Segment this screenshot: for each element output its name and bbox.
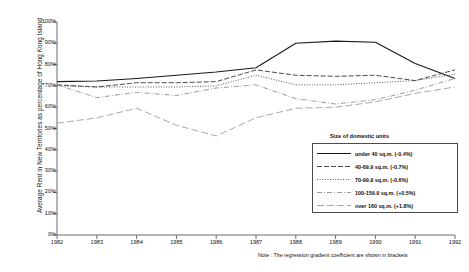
y-axis-tick-label: 100% (30, 19, 56, 25)
y-axis-tick-label: 20% (30, 189, 56, 195)
chart-note: Note : The regression gradient coefficie… (258, 252, 408, 258)
x-axis-tick-label: 1990 (360, 239, 390, 245)
legend-item-label: 70-99.9 sq.m. (-0.6%) (355, 177, 408, 183)
series-line-2 (57, 70, 455, 87)
legend-item: 40-69.9 sq.m. (-0.7%) (317, 160, 453, 173)
x-axis-tick-label: 1985 (161, 239, 191, 245)
x-axis-tick-label: 1992 (440, 239, 469, 245)
legend-item-label: 100-159.9 sq.m. (+0.5%) (355, 190, 415, 196)
rent-ratio-line-chart: Average Rent in New Territories as perce… (0, 0, 469, 272)
x-axis-tick-label: 1986 (201, 239, 231, 245)
y-axis-tick-label: 0% (30, 232, 56, 238)
x-axis-tick-label: 1989 (321, 239, 351, 245)
y-axis-tick-label: 90% (30, 40, 56, 46)
plot-area (0, 0, 469, 272)
x-axis-tick-label: 1984 (122, 239, 152, 245)
y-axis-tick-label: 10% (30, 211, 56, 217)
y-axis-tick-label: 30% (30, 168, 56, 174)
legend-item: under 40 sq.m. (-0.4%) (317, 147, 453, 160)
legend-line-swatch (317, 189, 351, 196)
legend: under 40 sq.m. (-0.4%)40-69.9 sq.m. (-0.… (312, 143, 458, 213)
legend-item: over 160 sq.m. (+1.8%) (317, 199, 453, 212)
legend-item-label: under 40 sq.m. (-0.4%) (355, 151, 412, 157)
series-line-4 (57, 78, 455, 104)
legend-line-swatch (317, 176, 351, 183)
legend-line-swatch (317, 150, 351, 157)
x-axis-tick-label: 1987 (241, 239, 271, 245)
legend-line-swatch (317, 163, 351, 170)
x-axis-tick-label: 1988 (281, 239, 311, 245)
x-axis-tick-label: 1991 (400, 239, 430, 245)
legend-item-label: over 160 sq.m. (+1.8%) (355, 203, 413, 209)
legend-item: 100-159.9 sq.m. (+0.5%) (317, 186, 453, 199)
legend-item: 70-99.9 sq.m. (-0.6%) (317, 173, 453, 186)
legend-title: Size of domestic units (330, 133, 389, 139)
legend-line-swatch (317, 202, 351, 209)
y-axis-tick-label: 60% (30, 104, 56, 110)
legend-item-label: 40-69.9 sq.m. (-0.7%) (355, 164, 408, 170)
y-axis-tick-labels: 0%10%20%30%40%50%60%70%80%90%100% (28, 0, 56, 240)
y-axis-tick-label: 40% (30, 147, 56, 153)
series-line-5 (57, 87, 455, 136)
x-axis-tick-label: 1982 (42, 239, 72, 245)
x-axis-tick-label: 1983 (82, 239, 112, 245)
y-axis-tick-label: 80% (30, 62, 56, 68)
y-axis-tick-label: 70% (30, 83, 56, 89)
y-axis-tick-label: 50% (30, 126, 56, 132)
